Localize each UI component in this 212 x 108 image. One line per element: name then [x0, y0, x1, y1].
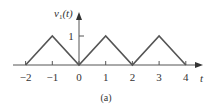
triangle-wave-line [26, 36, 186, 65]
x-ticks [26, 61, 186, 65]
x-tick-label: 0 [76, 71, 82, 83]
x-tick-label: −2 [20, 71, 32, 83]
x-axis-label: t [200, 72, 204, 84]
x-tick-label: 3 [156, 71, 162, 83]
x-axis-arrow-icon [195, 62, 203, 68]
x-tick-labels: −2−101234 [20, 71, 189, 83]
x-tick-label: 4 [183, 71, 189, 83]
y-axis-label: v1(t) [54, 7, 73, 21]
x-tick-label: 1 [103, 71, 109, 83]
figure-caption: (a) [100, 92, 111, 104]
triangle-wave-chart: −2−101234 1 t v1(t) (a) [0, 0, 212, 108]
x-tick-label: −1 [46, 71, 58, 83]
x-tick-label: 2 [130, 71, 136, 83]
y-axis-arrow-icon [76, 12, 82, 20]
y-tick-label-1: 1 [68, 30, 74, 42]
